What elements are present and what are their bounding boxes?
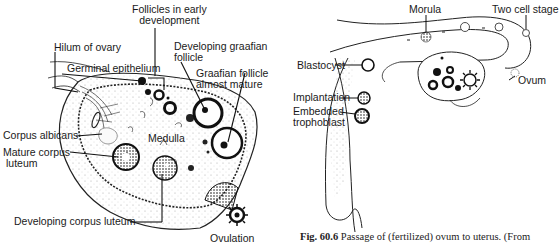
ovulated-ovum xyxy=(226,204,248,226)
figure-caption: Fig. 60.6 Passage of (fertilized) ovum t… xyxy=(300,231,530,242)
figure-number: Fig. 60.6 xyxy=(300,231,338,242)
tube-uterus-drawing xyxy=(325,15,530,232)
label-embedded-trophoblast: Embedded trophoblast xyxy=(293,106,345,128)
label-follicles-early: Follicles in early development xyxy=(132,4,207,26)
label-developing-corpus-luteum: Developing corpus luteum xyxy=(14,216,135,227)
label-corpus-albicans: Corpus albicans xyxy=(3,130,78,141)
label-mature-corpus-luteum: Mature corpus luteum xyxy=(3,147,70,169)
label-two-cell-stage: Two cell stage xyxy=(492,4,559,15)
label-implantation: Implantation xyxy=(293,92,350,103)
label-developing-graafian-follicle: Developing graafian follicle xyxy=(174,41,267,63)
label-morula: Morula xyxy=(409,4,441,15)
label-hilum-of-ovary: Hilum of ovary xyxy=(54,42,121,53)
label-ovulation: Ovulation xyxy=(210,233,254,244)
label-germinal-epithelium: Germinal epithelium xyxy=(67,63,160,74)
caption-text: Passage of (fertilized) ovum to uterus. … xyxy=(338,231,530,242)
label-graafian-follicle-mature: Graafian follicle almost mature xyxy=(196,68,268,90)
label-medulla: Medulla xyxy=(148,133,185,144)
label-ovum: Ovum xyxy=(518,75,546,86)
label-blastocyst: Blastocyst xyxy=(297,60,345,71)
